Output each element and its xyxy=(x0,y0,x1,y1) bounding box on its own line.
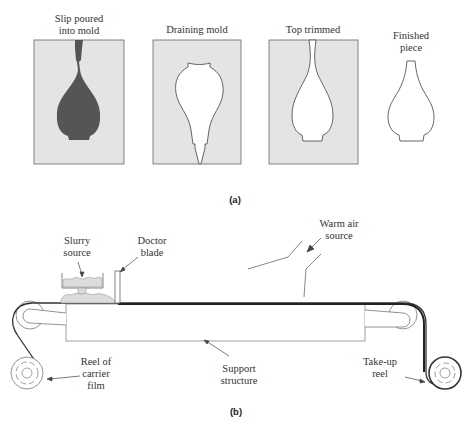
panel-finished-piece: Finished piece xyxy=(388,30,434,141)
warm-air-label-line-1: Warm air xyxy=(319,218,359,229)
slurry-source-label-line-1: Slurry xyxy=(64,235,91,246)
slurry-source-label-line-2: source xyxy=(63,247,91,258)
take-up-reel xyxy=(429,357,461,389)
caption-b: (b) xyxy=(230,406,242,417)
take-up-reel-label-line-2: reel xyxy=(372,368,388,379)
panel-1-title-line-2: into mold xyxy=(59,25,100,36)
doctor-blade-label-line-2: blade xyxy=(141,247,164,258)
panel-slip-poured: Slip poured into mold xyxy=(34,13,124,164)
panel-draining-mold: Draining mold xyxy=(153,24,241,164)
slurry-source xyxy=(61,273,115,303)
reel-of-carrier-film-label-line-1: Reel of xyxy=(81,356,112,367)
reel-of-carrier-film xyxy=(11,357,43,389)
panel-4-title-line-1: Finished xyxy=(393,30,430,41)
part-b-tape-casting: Slurry source Doctor blade Warm air sour… xyxy=(11,218,461,417)
take-up-reel-label-line-1: Take-up xyxy=(363,356,397,367)
warm-air-label-line-2: source xyxy=(325,230,353,241)
finished-piece xyxy=(388,61,434,141)
support-structure-label-line-1: Support xyxy=(222,363,255,374)
part-a-slip-casting: Slip poured into mold Draining mold Top … xyxy=(34,13,434,205)
support-structure-label-line-2: structure xyxy=(221,375,258,386)
doctor-blade xyxy=(115,271,120,303)
panel-top-trimmed: Top trimmed xyxy=(269,24,358,164)
slip-casting-and-tape-casting-diagram: Slip poured into mold Draining mold Top … xyxy=(0,0,469,429)
doctor-blade-label-line-1: Doctor xyxy=(137,235,167,246)
reel-of-carrier-film-label-line-3: film xyxy=(87,380,105,391)
support-structure xyxy=(66,304,365,341)
panel-1-title-line-1: Slip poured xyxy=(55,13,104,24)
panel-2-title: Draining mold xyxy=(166,24,228,35)
reel-of-carrier-film-label-line-2: carrier xyxy=(82,368,110,379)
panel-3-title: Top trimmed xyxy=(286,24,341,35)
panel-4-title-line-2: piece xyxy=(400,42,422,53)
caption-a: (a) xyxy=(229,194,241,205)
